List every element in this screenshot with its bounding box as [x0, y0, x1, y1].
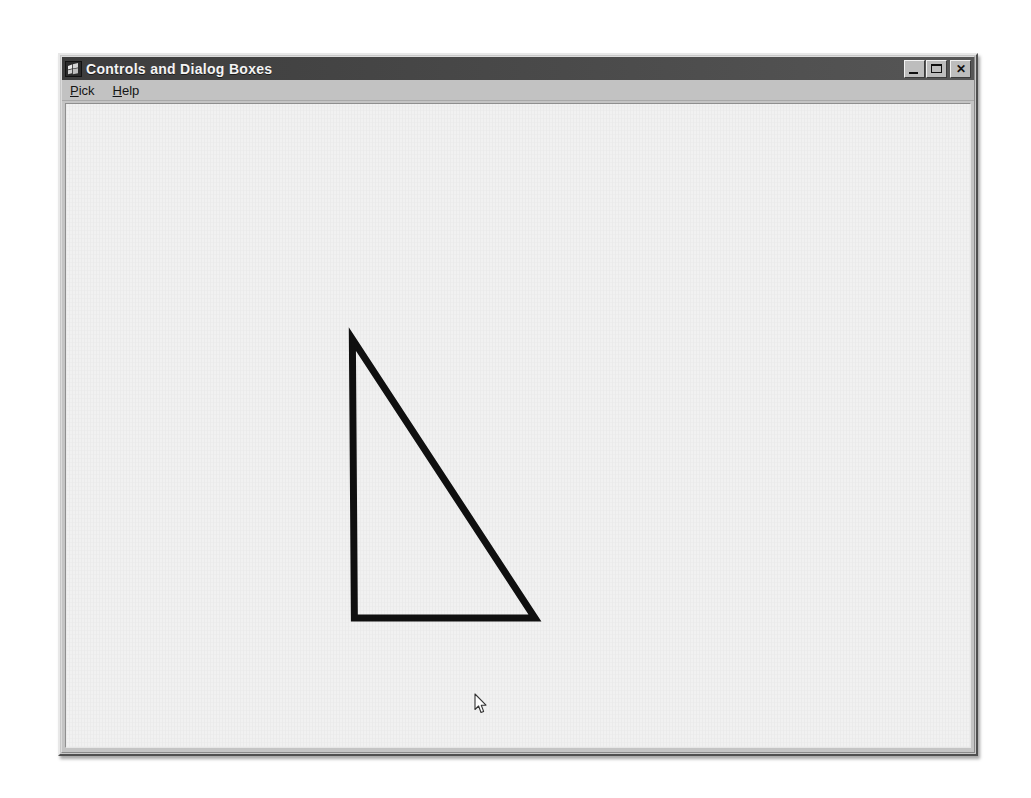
close-icon: ✕: [951, 61, 970, 77]
minimize-button[interactable]: [904, 60, 925, 78]
maximize-icon: [931, 64, 942, 73]
menu-item-help[interactable]: Help: [111, 82, 149, 99]
application-window: Controls and Dialog Boxes ✕ Pick: [58, 53, 978, 756]
drawing-canvas[interactable]: [65, 103, 971, 748]
page-root: Controls and Dialog Boxes ✕ Pick: [0, 0, 1031, 798]
window-inner-frame: Controls and Dialog Boxes ✕ Pick: [61, 56, 975, 753]
menu-item-pick-accel: P: [70, 83, 79, 98]
menu-item-help-label: elp: [122, 83, 139, 98]
title-bar[interactable]: Controls and Dialog Boxes ✕: [62, 57, 974, 80]
menu-item-pick[interactable]: Pick: [68, 82, 104, 99]
window-title: Controls and Dialog Boxes: [86, 61, 272, 77]
windows-flag-icon: [65, 61, 82, 77]
canvas-svg: [66, 104, 970, 747]
title-bar-buttons: ✕: [904, 60, 971, 78]
maximize-button[interactable]: [926, 60, 947, 78]
right-triangle-shape: [352, 339, 535, 618]
menu-item-help-accel: H: [113, 83, 122, 98]
menu-item-pick-label: ick: [79, 83, 95, 98]
menu-bar: Pick Help: [62, 80, 974, 101]
close-button[interactable]: ✕: [950, 60, 971, 78]
minimize-icon: [909, 72, 918, 74]
